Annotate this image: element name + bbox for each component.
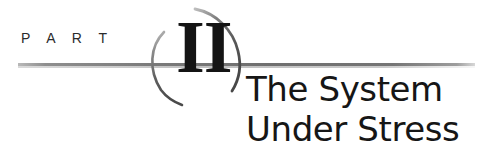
part-title-line-1: The System: [246, 69, 459, 109]
part-title-block: The System Under Stress: [246, 69, 459, 149]
part-opener: P A R T: [0, 0, 488, 168]
part-kicker-label: P A R T: [21, 31, 113, 45]
part-title-line-2: Under Stress: [246, 109, 459, 149]
part-numeral: II: [176, 10, 218, 84]
